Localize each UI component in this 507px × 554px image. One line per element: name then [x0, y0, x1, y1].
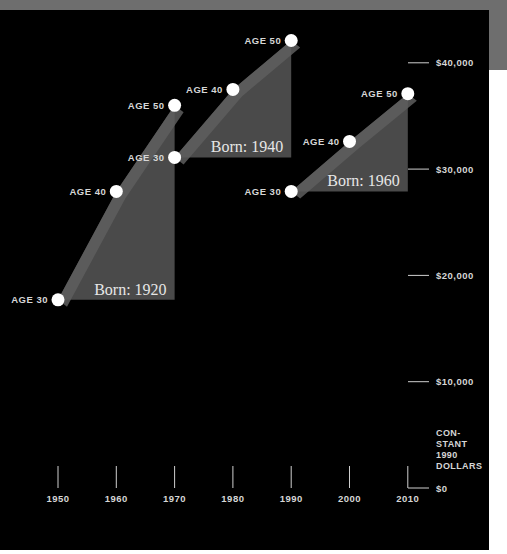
cohort-label: Born: 1940 — [211, 138, 283, 155]
y-tick-label: $40,000 — [436, 57, 474, 68]
age-label: AGE 30 — [128, 152, 165, 163]
age-label: AGE 40 — [70, 186, 107, 197]
x-tick-label: 2000 — [338, 493, 361, 504]
data-point — [110, 185, 123, 198]
cohort-income-chart: $0$10,000$20,000$30,000$40,0001950196019… — [0, 0, 507, 554]
y-tick-label: $20,000 — [436, 270, 474, 281]
x-tick-label: 1980 — [221, 493, 244, 504]
x-tick-label: 1970 — [163, 493, 186, 504]
data-point — [401, 87, 414, 100]
data-point — [168, 99, 181, 112]
age-label: AGE 50 — [128, 100, 165, 111]
data-point — [285, 34, 298, 47]
age-label: AGE 40 — [186, 84, 223, 95]
age-label: AGE 30 — [11, 294, 48, 305]
y-tick-label: $30,000 — [436, 164, 474, 175]
age-label: AGE 30 — [244, 186, 281, 197]
cohort-label: Born: 1920 — [94, 281, 166, 298]
data-point — [285, 185, 298, 198]
x-tick-label: 1960 — [105, 493, 128, 504]
x-tick-label: 1950 — [46, 493, 69, 504]
y-tick-label: $0 — [436, 483, 448, 494]
data-point — [226, 83, 239, 96]
age-label: AGE 50 — [361, 88, 398, 99]
data-point — [52, 293, 65, 306]
data-point — [168, 151, 181, 164]
data-point — [343, 135, 356, 148]
y-axis-unit-label: CON- STANT 1990 DOLLARS — [436, 428, 486, 472]
y-tick-label: $10,000 — [436, 376, 474, 387]
cohort-label: Born: 1960 — [327, 172, 399, 189]
x-tick-label: 2010 — [396, 493, 419, 504]
age-label: AGE 50 — [244, 35, 281, 46]
age-label: AGE 40 — [303, 136, 340, 147]
x-tick-label: 1990 — [280, 493, 303, 504]
